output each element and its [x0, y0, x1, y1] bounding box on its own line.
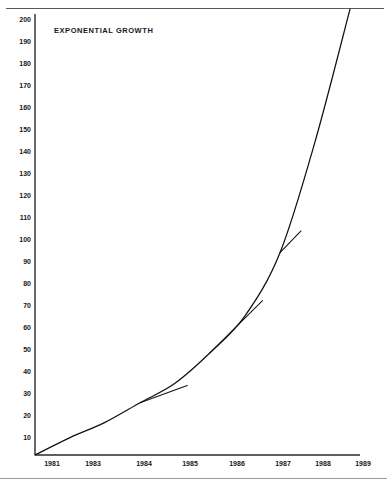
x-tick-label: 1983: [73, 459, 113, 468]
x-tick-label: 1986: [217, 459, 257, 468]
x-tick-label: 1981: [32, 459, 72, 468]
x-tick-label: 1988: [303, 459, 343, 468]
x-tick-label: 1987: [263, 459, 303, 468]
chart-page: EXPONENTIAL GROWTH 200190180170160150140…: [0, 0, 387, 487]
x-tick-label: 1985: [170, 459, 210, 468]
x-tick-label: 1989: [343, 459, 383, 468]
x-axis-tick-labels: 19811983198419851986198719881989: [0, 0, 387, 487]
x-tick-label: 1984: [124, 459, 164, 468]
